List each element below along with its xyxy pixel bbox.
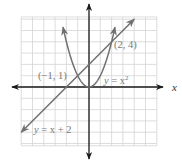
parabola-equation-label: y = x2 — [103, 74, 129, 86]
point-label-2-4: (2, 4) — [114, 39, 137, 51]
x-axis-label: x — [171, 81, 177, 93]
point-label-neg1-1: (−1, 1) — [38, 70, 67, 82]
line-equation-label: y = x + 2 — [33, 124, 72, 135]
graph-figure: x (−1, 1) (2, 4) y = x2 y = x + 2 — [0, 0, 182, 167]
